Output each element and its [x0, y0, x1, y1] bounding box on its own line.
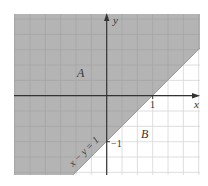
y-axis-label: y — [112, 14, 118, 26]
x-axis-label: x — [193, 98, 199, 110]
region-b-label: B — [141, 127, 149, 141]
y-tick-label-minus-1: −1 — [111, 138, 122, 149]
inequality-diagram: x y 1 −1 A B x − y = 1 — [0, 0, 208, 186]
x-tick-label-1: 1 — [150, 99, 155, 110]
region-a-label: A — [76, 66, 85, 80]
